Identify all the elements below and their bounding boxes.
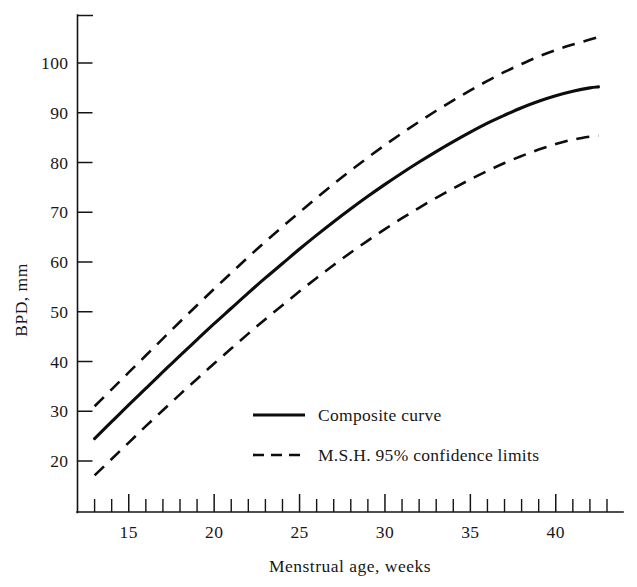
x-tick-label: 40 xyxy=(547,522,565,542)
y-axis-ticks xyxy=(78,63,93,461)
x-tick-label: 30 xyxy=(376,522,394,542)
x-tick-label: 25 xyxy=(290,522,308,542)
x-tick-label: 15 xyxy=(120,522,138,542)
y-tick-label: 60 xyxy=(50,252,68,272)
legend-label: M.S.H. 95% confidence limits xyxy=(318,445,539,465)
y-tick-label: 40 xyxy=(50,352,68,372)
y-tick-label: 90 xyxy=(50,103,68,123)
y-tick-label: 100 xyxy=(41,53,68,73)
legend-label: Composite curve xyxy=(318,405,442,425)
x-tick-label: 20 xyxy=(205,522,223,542)
y-tick-label: 50 xyxy=(50,302,68,322)
x-tick-label: 35 xyxy=(461,522,479,542)
x-axis-tick-labels: 152025303540 xyxy=(120,522,565,542)
axis-spines xyxy=(77,15,623,513)
bpd-growth-chart: 2030405060708090100 152025303540 BPD, mm… xyxy=(0,0,637,587)
y-tick-label: 20 xyxy=(50,451,68,471)
y-tick-label: 80 xyxy=(50,153,68,173)
y-tick-label: 30 xyxy=(50,401,68,421)
y-axis-tick-labels: 2030405060708090100 xyxy=(41,53,68,471)
series-line-0 xyxy=(95,37,599,406)
chart-plot-area: 2030405060708090100 152025303540 BPD, mm… xyxy=(0,0,637,587)
x-axis-ticks xyxy=(95,494,607,512)
y-axis-title: BPD, mm xyxy=(11,263,31,337)
x-axis-title: Menstrual age, weeks xyxy=(269,556,431,576)
chart-legend: Composite curveM.S.H. 95% confidence lim… xyxy=(253,405,539,465)
series-line-1 xyxy=(95,87,599,439)
y-tick-label: 70 xyxy=(50,202,68,222)
